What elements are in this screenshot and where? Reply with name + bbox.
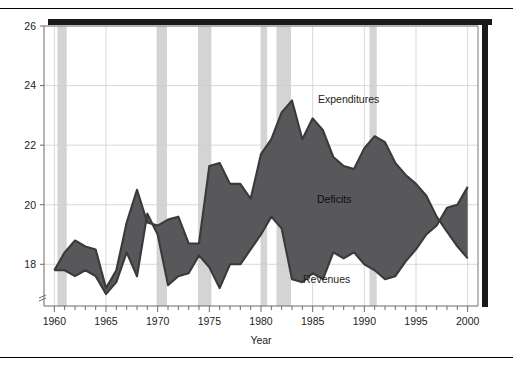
x-tick-label-0: 1960 [43, 315, 67, 327]
y-tick-label-0: 18 [24, 258, 36, 270]
deficits-area-chart: 1820222426196019651970197519801985199019… [0, 0, 513, 365]
y-tick-label-2: 22 [24, 139, 36, 151]
y-tick-label-3: 24 [24, 79, 36, 91]
frame-heavy-right [482, 19, 488, 307]
x-tick-label-8: 2000 [456, 315, 480, 327]
frame-heavy-top [48, 19, 492, 25]
x-tick-label-7: 1995 [404, 315, 428, 327]
revenues-annotation: Revenues [303, 273, 350, 285]
figure-container: 1820222426196019651970197519801985199019… [0, 0, 513, 365]
x-tick-label-3: 1975 [198, 315, 222, 327]
expenditures-annotation: Expenditures [318, 93, 379, 105]
x-axis-title: Year [250, 334, 272, 346]
x-tick-label-2: 1970 [146, 315, 170, 327]
x-tick-label-5: 1985 [301, 315, 325, 327]
y-tick-label-4: 26 [24, 20, 36, 32]
x-tick-label-4: 1980 [249, 315, 273, 327]
x-tick-label-6: 1990 [353, 315, 377, 327]
x-tick-label-1: 1965 [94, 315, 118, 327]
y-tick-label-1: 20 [24, 199, 36, 211]
deficits-annotation: Deficits [317, 193, 351, 205]
